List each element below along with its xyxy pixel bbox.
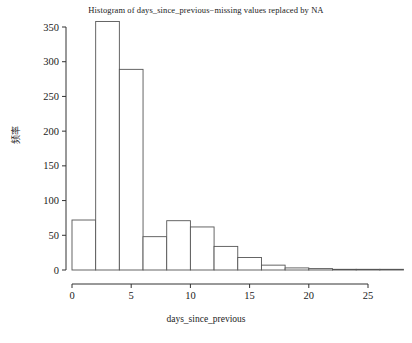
histogram-bar [261, 265, 285, 270]
x-axis-tick-label: 15 [244, 290, 255, 301]
histogram-bars [72, 21, 404, 270]
histogram-bar [356, 269, 380, 270]
y-axis-tick-label: 150 [43, 160, 59, 171]
histogram-figure: Histogram of days_since_previous−missing… [0, 0, 412, 343]
histogram-bar [190, 227, 214, 270]
x-axis: 0510152025 [69, 284, 373, 301]
y-axis-tick-label: 300 [43, 56, 59, 67]
x-axis-tick-label: 20 [304, 290, 315, 301]
y-axis-tick-label: 100 [43, 195, 59, 206]
histogram-bar [96, 21, 120, 270]
y-axis-tick-label: 250 [43, 91, 59, 102]
histogram-bar [214, 246, 238, 270]
histogram-bar [72, 220, 96, 270]
y-axis-tick-label: 0 [54, 265, 59, 276]
histogram-bar [167, 221, 191, 270]
histogram-bar [309, 269, 333, 270]
y-axis-tick-label: 350 [43, 22, 59, 33]
histogram-bar [143, 237, 167, 270]
x-axis-tick-label: 0 [69, 290, 74, 301]
histogram-bar [285, 268, 309, 270]
histogram-bar [238, 258, 262, 270]
histogram-bar [332, 269, 356, 270]
x-axis-tick-label: 10 [185, 290, 196, 301]
histogram-bar [119, 69, 143, 270]
y-axis: 050100150200250300350 [43, 22, 66, 276]
y-axis-tick-label: 200 [43, 126, 59, 137]
y-axis-tick-label: 50 [49, 230, 60, 241]
plot-area: 050100150200250300350 0510152025 [0, 0, 412, 343]
x-axis-tick-label: 25 [363, 290, 374, 301]
x-axis-tick-label: 5 [129, 290, 134, 301]
histogram-bar [380, 269, 404, 270]
